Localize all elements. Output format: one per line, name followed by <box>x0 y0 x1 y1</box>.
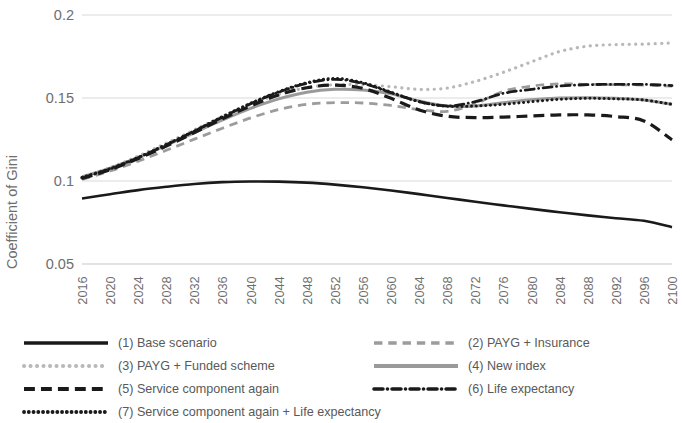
legend-label: (6) Life expectancy <box>468 382 574 396</box>
legend-swatch-s2 <box>372 336 460 350</box>
x-tick-label: 2044 <box>271 271 286 311</box>
x-tick-label: 2048 <box>299 271 314 311</box>
x-tick-label: 2040 <box>243 271 258 311</box>
legend-swatch-s4 <box>372 359 460 373</box>
x-tick-label: 2072 <box>468 271 483 311</box>
x-tick-label: 2032 <box>187 271 202 311</box>
x-tick-label: 2056 <box>355 271 370 311</box>
legend-swatch-s1 <box>22 336 110 350</box>
x-tick-label: 2100 <box>665 271 680 311</box>
legend-swatch-s5 <box>22 382 110 396</box>
x-tick-label: 2084 <box>552 271 567 311</box>
gini-coefficient-line-chart: Coefficient of Gini 0.050.10.150.2 20162… <box>0 0 682 423</box>
legend-swatch-s7 <box>22 405 110 419</box>
chart-legend: (1) Base scenario(2) PAYG + Insurance(3)… <box>22 332 670 422</box>
x-tick-label: 2088 <box>580 271 595 311</box>
legend-label: (4) New index <box>468 359 546 373</box>
legend-swatch-s6 <box>372 382 460 396</box>
x-tick-label: 2080 <box>524 271 539 311</box>
legend-label: (3) PAYG + Funded scheme <box>118 359 275 373</box>
legend-label: (2) PAYG + Insurance <box>468 336 590 350</box>
x-tick-label: 2016 <box>75 271 90 311</box>
legend-label: (5) Service component again <box>118 382 279 396</box>
legend-label: (1) Base scenario <box>118 336 217 350</box>
x-tick-label: 2076 <box>496 271 511 311</box>
x-tick-label: 2092 <box>608 271 623 311</box>
x-tick-label: 2060 <box>384 271 399 311</box>
x-tick-label: 2024 <box>131 271 146 311</box>
x-tick-label: 2068 <box>440 271 455 311</box>
legend-swatch-s3 <box>22 359 110 373</box>
x-tick-label: 2096 <box>636 271 651 311</box>
x-tick-label: 2052 <box>327 271 342 311</box>
legend-label: (7) Service component again + Life expec… <box>118 405 381 419</box>
x-tick-label: 2064 <box>412 271 427 311</box>
x-tick-label: 2028 <box>159 271 174 311</box>
x-tick-label: 2036 <box>215 271 230 311</box>
x-tick-label: 2020 <box>103 271 118 311</box>
